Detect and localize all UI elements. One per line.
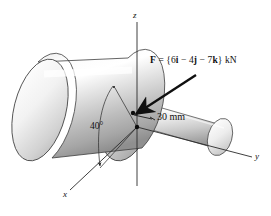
z-axis-label: z [133, 11, 137, 20]
force-minus-second: − 7 [197, 55, 212, 65]
angle-arc-endpoint [113, 86, 115, 88]
force-units: } kN [218, 55, 237, 65]
force-minus-first: − 4 [179, 55, 194, 65]
force-equals: = {6 [156, 55, 176, 65]
engineering-diagram: z y x 40° 30 mm F = {6i − 4j − 7k} kN [0, 0, 271, 216]
diagram-canvas [0, 0, 271, 216]
shaft-center-point [135, 125, 139, 129]
force-application-point [131, 111, 135, 115]
large-cylinder-highlight [44, 70, 132, 74]
x-axis-label: x [63, 190, 67, 199]
angle-label: 40° [90, 122, 103, 132]
radius-dimension-label: 30 mm [157, 112, 185, 122]
y-axis-label: y [255, 152, 259, 161]
large-cylinder [2, 49, 166, 166]
force-label: F = {6i − 4j − 7k} kN [150, 56, 237, 66]
